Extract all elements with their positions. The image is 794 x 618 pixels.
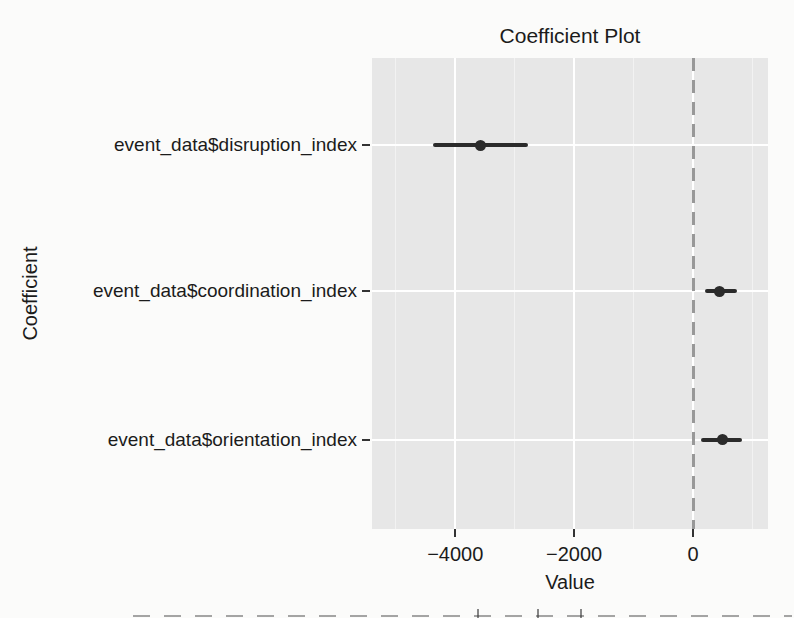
chart-title: Coefficient Plot <box>372 24 768 48</box>
x-axis-tick-mark <box>573 529 575 537</box>
gridline-horizontal-major <box>372 144 768 146</box>
estimate-point <box>475 140 486 151</box>
zero-reference-line <box>692 58 695 529</box>
y-axis-tick-mark <box>362 144 370 146</box>
x-axis-tick-mark <box>454 529 456 537</box>
plot-panel <box>372 58 768 529</box>
x-axis-title: Value <box>372 571 768 594</box>
y-axis-tick-mark <box>362 290 370 292</box>
x-axis-tick-mark <box>692 529 694 537</box>
estimate-point <box>717 434 728 445</box>
gridline-vertical-minor <box>514 58 515 529</box>
x-axis-tick-label: 0 <box>688 543 699 565</box>
gridline-vertical-major <box>573 58 575 529</box>
x-axis-tick-label: −2000 <box>546 543 602 565</box>
gridline-vertical-minor <box>752 58 753 529</box>
cropped-caption-stroke <box>580 609 582 618</box>
x-axis-tick-label: −4000 <box>427 543 483 565</box>
y-category-label: event_data$disruption_index <box>0 133 357 156</box>
gridline-vertical-minor <box>633 58 634 529</box>
y-axis-tick-mark <box>362 439 370 441</box>
cropped-caption-stroke <box>537 609 539 618</box>
estimate-point <box>714 286 725 297</box>
cropped-caption-fragment <box>0 606 794 618</box>
gridline-vertical-major <box>454 58 456 529</box>
cropped-caption-stroke <box>477 609 479 618</box>
coefficient-plot-figure: Coefficient Plot Coefficient event_data$… <box>0 0 794 618</box>
y-category-label: event_data$orientation_index <box>0 428 357 451</box>
gridline-vertical-minor <box>395 58 396 529</box>
cropped-caption-baseline <box>133 615 792 617</box>
y-category-label: event_data$coordination_index <box>0 279 357 302</box>
